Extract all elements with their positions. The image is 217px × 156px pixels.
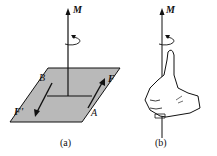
rotation-arrow-icon: [159, 37, 174, 45]
plane: [10, 68, 120, 122]
right-hand-icon: [145, 50, 200, 117]
moment-label-b: M: [166, 5, 175, 15]
figure-b: [145, 8, 200, 138]
caption-b: (b): [155, 138, 167, 148]
force-f-prime-label: F': [14, 107, 23, 117]
force-f-label: F: [108, 74, 115, 84]
figure-a: [10, 8, 120, 122]
moment-arrowhead-icon: [160, 8, 165, 15]
rotation-arrow-icon: [65, 37, 80, 45]
point-b-label: B: [39, 73, 45, 83]
point-a-label: A: [91, 108, 97, 118]
caption-a: (a): [60, 138, 71, 148]
moment-arrowhead-icon: [66, 8, 71, 15]
moment-label-a: M: [73, 5, 82, 15]
